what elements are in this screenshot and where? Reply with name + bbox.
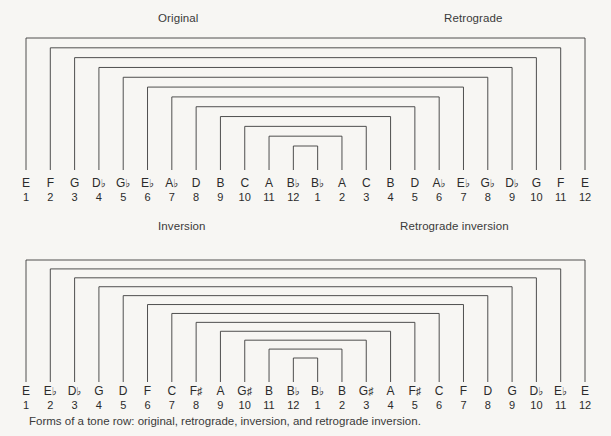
tone-row-figure: Original Retrograde E1F2G3D♭4G♭5E♭6A♭7D8… [0,0,611,436]
figure-caption: Forms of a tone row: original, retrograd… [29,415,421,427]
note-position-number: 12 [570,190,600,204]
bracket-svg-bottom [0,252,611,382]
bracket-group-bottom [0,252,611,382]
tone-row-bracket [220,117,390,170]
note-position-number: 12 [570,398,600,412]
tone-row-bracket [99,287,512,382]
tone-row-bracket [172,97,439,170]
note-name: E [570,384,600,398]
label-row-top: E1F2G3D♭4G♭5E♭6A♭7D8B9C10A11B♭12B♭1A2C3B… [0,176,611,210]
panel-title-original: Original [158,12,198,24]
panel-title-retrograde: Retrograde [444,12,503,24]
note-column: E12 [570,384,600,412]
tone-row-bracket [50,48,560,170]
tone-row-bracket [245,340,367,382]
tone-row-bracket [269,136,342,170]
tone-row-bracket [172,313,439,382]
bracket-group-top [0,30,611,170]
tone-row-bracket [293,358,317,382]
tone-row-bracket [123,77,488,170]
tone-row-bracket [75,278,537,382]
panel-title-inversion: Inversion [158,220,206,232]
tone-row-bracket [50,269,560,382]
note-name: E [570,176,600,190]
tone-row-bracket [148,305,464,382]
tone-row-bracket [26,260,585,382]
note-column: E12 [570,176,600,204]
tone-row-bracket [75,58,537,170]
panel-title-retrograde-inversion: Retrograde inversion [400,220,509,232]
label-row-bottom: E1E♭2D♭3G4D5F6C7F♯8A9G♯10B11B♭12B♭1B2G♯3… [0,384,611,418]
tone-row-bracket [245,126,367,170]
tone-row-bracket [123,296,488,382]
bracket-svg-top [0,30,611,170]
tone-row-bracket [99,67,512,170]
tone-row-bracket [293,146,317,170]
tone-row-bracket [220,331,390,382]
tone-row-bracket [269,349,342,382]
tone-row-bracket [148,87,464,170]
